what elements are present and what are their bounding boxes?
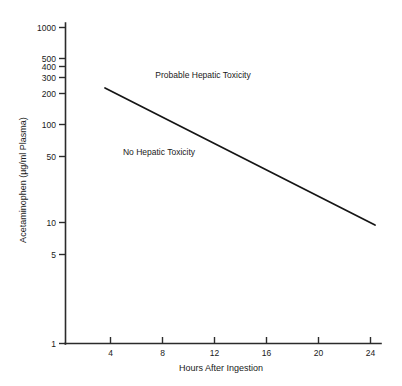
y-tick-label-5: 5 [51,250,56,260]
x-tick-label-16: 16 [262,348,272,358]
y-tick-label-400: 400 [42,62,56,72]
x-tick-label-24: 24 [366,348,376,358]
x-axis-title: Hours After Ingestion [179,363,263,373]
y-tick-label-300: 300 [42,73,56,83]
y-tick-label-100: 100 [42,120,56,130]
y-axis-tick-labels: 1000 500 400 300 200 100 50 10 5 1 [37,23,56,349]
y-tick-label-10: 10 [47,218,57,228]
y-axis-title: Acetaminophen (µg/ml Plasma) [18,117,28,243]
nomogram-plot: 1000 500 400 300 200 100 50 10 5 1 4 8 1… [0,0,402,386]
x-axis-tick-labels: 4 8 12 16 20 24 [108,348,375,358]
nomogram-figure: 1000 500 400 300 200 100 50 10 5 1 4 8 1… [0,0,402,386]
y-tick-label-50: 50 [47,152,57,162]
x-tick-label-4: 4 [108,348,113,358]
y-tick-label-1000: 1000 [37,23,56,33]
y-tick-label-200: 200 [42,89,56,99]
no-hepatic-toxicity-label: No Hepatic Toxicity [123,147,196,157]
x-tick-label-12: 12 [210,348,220,358]
probable-hepatic-toxicity-label: Probable Hepatic Toxicity [155,70,251,80]
x-tick-label-20: 20 [314,348,324,358]
y-tick-label-1: 1 [51,339,56,349]
x-tick-label-8: 8 [160,348,165,358]
